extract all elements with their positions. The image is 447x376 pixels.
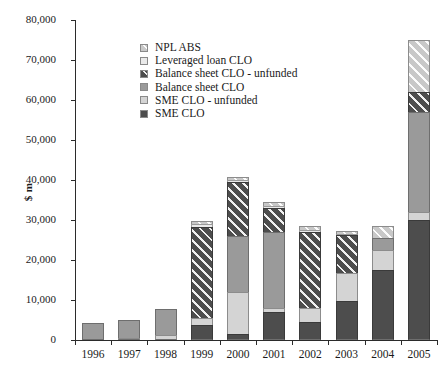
legend-item[interactable]: SME CLO - unfunded (140, 94, 297, 107)
bar-segment-sme-clo[interactable] (372, 270, 394, 340)
bar-2004[interactable] (372, 20, 394, 340)
legend-item-label: SME CLO (155, 107, 205, 120)
legend-item[interactable]: NPL ABS (140, 41, 297, 54)
y-axis-tick-mark (71, 100, 75, 101)
y-axis-line (75, 20, 76, 340)
x-axis-tick-label: 2005 (394, 348, 444, 360)
bar-segment-npl-abs[interactable] (372, 226, 394, 238)
x-axis-tick-mark (401, 340, 402, 345)
bar-2003[interactable] (336, 20, 358, 340)
y-axis-tick-mark (71, 20, 75, 21)
bar-segment-npl-abs[interactable] (227, 177, 249, 180)
bar-segment-sme-clo-unfunded[interactable] (155, 335, 177, 340)
x-axis-tick-mark (256, 340, 257, 345)
bar-segment-sme-clo-unfunded[interactable] (191, 318, 213, 325)
bar-segment-balance-sheet-clo[interactable] (155, 309, 177, 335)
npl-abs-swatch (140, 44, 148, 52)
y-axis-tick-mark (71, 60, 75, 61)
legend-item-label: Balance sheet CLO - unfunded (155, 67, 297, 80)
bar-segment-sme-clo[interactable] (191, 325, 213, 340)
bar-segment-sme-clo[interactable] (263, 312, 285, 340)
y-axis-tick-mark (71, 180, 75, 181)
bar-segment-leveraged-loan-clo[interactable] (227, 180, 249, 182)
legend-item-label: Balance sheet CLO (155, 81, 244, 94)
bar-segment-sme-clo-unfunded[interactable] (118, 338, 140, 340)
y-axis-tick-label: 70,000 (0, 54, 56, 65)
x-axis-tick-mark (75, 340, 76, 345)
bar-segment-sme-clo[interactable] (408, 220, 430, 340)
bar-segment-sme-clo[interactable] (299, 322, 321, 340)
bar-segment-sme-clo[interactable] (227, 334, 249, 340)
x-axis-tick-mark (184, 340, 185, 345)
bar-segment-npl-abs[interactable] (263, 202, 285, 206)
bar-2002[interactable] (299, 20, 321, 340)
bar-segment-sme-clo-unfunded[interactable] (408, 212, 430, 220)
x-axis-tick-mark (365, 340, 366, 345)
balance-sheet-clo-swatch (140, 83, 148, 91)
x-axis-tick-mark (292, 340, 293, 345)
legend-item[interactable]: Balance sheet CLO - unfunded (140, 67, 297, 80)
y-axis-tick-label: 80,000 (0, 14, 56, 25)
bar-segment-balance-sheet-clo-unfunded[interactable] (263, 208, 285, 232)
x-axis-tick-mark (147, 340, 148, 345)
legend-item-label: SME CLO - unfunded (155, 94, 258, 107)
y-axis-tick-mark (71, 140, 75, 141)
chart-legend: NPL ABSLeveraged loan CLOBalance sheet C… (140, 41, 297, 120)
bar-segment-balance-sheet-clo-unfunded[interactable] (227, 182, 249, 236)
bar-segment-sme-clo-unfunded[interactable] (263, 308, 285, 312)
x-axis-tick-mark (437, 340, 438, 345)
bar-segment-leveraged-loan-clo[interactable] (336, 234, 358, 236)
bar-1997[interactable] (118, 20, 140, 340)
y-axis-tick-mark (71, 220, 75, 221)
bar-segment-balance-sheet-clo[interactable] (82, 323, 104, 340)
bar-segment-balance-sheet-clo-unfunded[interactable] (191, 227, 213, 318)
y-axis-tick-label: 60,000 (0, 94, 56, 105)
y-axis-tick-label: 30,000 (0, 214, 56, 225)
y-axis-tick-label: 0 (0, 334, 56, 345)
bar-segment-balance-sheet-clo[interactable] (263, 232, 285, 308)
y-axis-tick-label: 10,000 (0, 294, 56, 305)
legend-item-label: NPL ABS (155, 41, 201, 54)
bar-segment-leveraged-loan-clo[interactable] (299, 230, 321, 232)
bar-1996[interactable] (82, 20, 104, 340)
bar-2005[interactable] (408, 20, 430, 340)
bar-segment-balance-sheet-clo-unfunded[interactable] (336, 235, 358, 273)
bar-segment-sme-clo-unfunded[interactable] (227, 292, 249, 334)
bar-segment-sme-clo-unfunded[interactable] (336, 273, 358, 301)
balance-sheet-clo-unfunded-swatch (140, 70, 148, 78)
bar-segment-balance-sheet-clo[interactable] (227, 236, 249, 292)
bar-segment-balance-sheet-clo[interactable] (118, 320, 140, 338)
sme-clo-unfunded-swatch (140, 96, 148, 104)
bar-segment-balance-sheet-clo[interactable] (372, 238, 394, 250)
bar-segment-balance-sheet-clo[interactable] (408, 112, 430, 212)
y-axis-tick-label: 20,000 (0, 254, 56, 265)
bar-segment-sme-clo-unfunded[interactable] (299, 308, 321, 322)
bar-segment-sme-clo-unfunded[interactable] (372, 250, 394, 270)
bar-segment-npl-abs[interactable] (336, 231, 358, 233)
bar-segment-balance-sheet-clo-unfunded[interactable] (299, 232, 321, 308)
leveraged-loan-clo-swatch (140, 57, 148, 65)
bar-segment-npl-abs[interactable] (299, 226, 321, 230)
bar-segment-leveraged-loan-clo[interactable] (263, 206, 285, 208)
bar-segment-npl-abs[interactable] (408, 40, 430, 92)
x-axis-tick-mark (111, 340, 112, 345)
bar-segment-balance-sheet-clo-unfunded[interactable] (408, 92, 430, 112)
stacked-bar-chart: $ m 80,00070,00060,00050,00040,00030,000… (0, 0, 447, 376)
x-axis-tick-mark (328, 340, 329, 345)
y-axis-tick-label: 40,000 (0, 174, 56, 185)
legend-item[interactable]: SME CLO (140, 107, 297, 120)
legend-item[interactable]: Balance sheet CLO (140, 81, 297, 94)
bar-segment-sme-clo[interactable] (336, 301, 358, 340)
y-axis-tick-mark (71, 260, 75, 261)
bar-segment-leveraged-loan-clo[interactable] (191, 224, 213, 227)
bar-segment-npl-abs[interactable] (191, 221, 213, 223)
legend-item[interactable]: Leveraged loan CLO (140, 54, 297, 67)
x-axis-tick-mark (220, 340, 221, 345)
y-axis-tick-label: 50,000 (0, 134, 56, 145)
legend-item-label: Leveraged loan CLO (155, 54, 252, 67)
y-axis-tick-mark (71, 300, 75, 301)
sme-clo-swatch (140, 110, 148, 118)
